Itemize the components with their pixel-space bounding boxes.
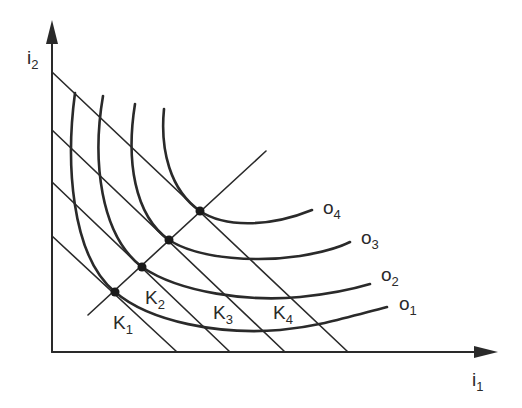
k3-main: K (213, 302, 226, 323)
isoquant-isocost-diagram (0, 0, 522, 408)
o2-main: o (381, 264, 392, 285)
isocost-label-k4: K4 (273, 303, 293, 326)
o3-main: o (361, 227, 372, 248)
k1-main: K (113, 312, 126, 333)
tangency-point-2 (138, 263, 147, 272)
isoquant-label-o2: o2 (381, 265, 399, 288)
o1-sub: 1 (410, 303, 417, 318)
tangency-point-4 (196, 207, 205, 216)
k2-sub: 2 (158, 297, 165, 312)
o2-sub: 2 (392, 274, 399, 289)
k1-sub: 1 (126, 322, 133, 337)
y-axis-label: i2 (27, 48, 38, 71)
o4-sub: 4 (334, 207, 341, 222)
isoquant-label-o3: o3 (361, 228, 379, 251)
k2-main: K (145, 287, 158, 308)
isoquant-label-o4: o4 (323, 198, 341, 221)
o1-main: o (399, 293, 410, 314)
isoquant-label-o1: o1 (399, 294, 417, 317)
isocost-label-k1: K1 (113, 313, 133, 336)
tangency-point-3 (165, 236, 174, 245)
x-axis-label-sub: 1 (476, 379, 483, 394)
k4-sub: 4 (286, 312, 293, 327)
isoquant-o4 (163, 109, 312, 223)
x-axis-arrow-icon (474, 346, 498, 358)
k4-main: K (273, 302, 286, 323)
o4-main: o (323, 197, 334, 218)
k3-sub: 3 (226, 312, 233, 327)
y-axis-label-sub: 2 (31, 57, 38, 72)
x-axis-label: i1 (472, 370, 483, 393)
o3-sub: 3 (372, 237, 379, 252)
isocost-label-k2: K2 (145, 288, 165, 311)
isocost-label-k3: K3 (213, 303, 233, 326)
tangency-point-1 (111, 288, 120, 297)
y-axis-arrow-icon (46, 20, 58, 44)
